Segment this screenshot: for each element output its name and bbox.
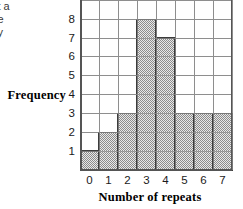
x-tick-label-2: 2	[120, 175, 136, 187]
histogram-figure: ct a ve cy Frequency Number of repeats 1…	[0, 0, 243, 209]
x-tick-label-4: 4	[158, 175, 174, 187]
x-tick-label-0: 0	[82, 175, 98, 187]
x-tick-label-3: 3	[139, 175, 155, 187]
x-tick-label-5: 5	[177, 175, 193, 187]
x-tick-label-1: 1	[101, 175, 117, 187]
x-tick-label-7: 7	[215, 175, 231, 187]
x-axis-tick-labels: 01234567	[0, 0, 243, 209]
x-tick-label-6: 6	[196, 175, 212, 187]
